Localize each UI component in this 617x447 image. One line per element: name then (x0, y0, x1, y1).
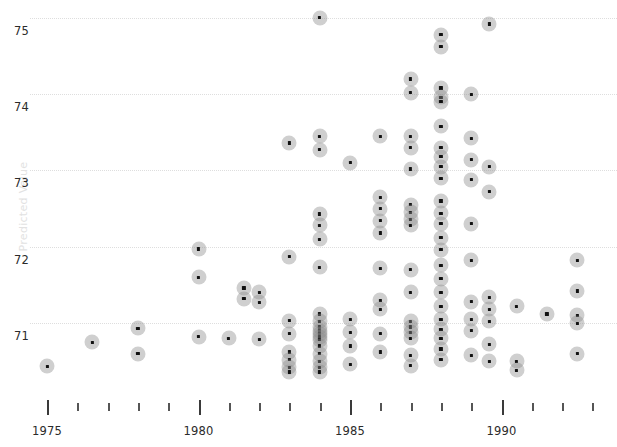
data-point (433, 149, 448, 164)
x-tick-minor-1993 (592, 403, 594, 411)
data-point (464, 216, 479, 231)
data-point (433, 140, 448, 155)
data-point (509, 299, 524, 314)
data-point (433, 341, 448, 356)
x-tick-major-1990 (502, 400, 504, 415)
data-point (312, 129, 327, 144)
data-point (433, 206, 448, 221)
data-point (373, 129, 388, 144)
data-point (464, 131, 479, 146)
data-point (373, 225, 388, 240)
data-point (482, 159, 497, 174)
data-point (482, 314, 497, 329)
data-point (403, 129, 418, 144)
x-tick-minor-1987 (411, 403, 413, 411)
x-tick-label-1990: 1990 (486, 424, 516, 438)
data-point (282, 249, 297, 264)
x-tick-major-1980 (199, 400, 201, 415)
x-tick-minor-1976 (77, 403, 79, 411)
data-point (282, 326, 297, 341)
x-tick-minor-1983 (289, 403, 291, 411)
x-tick-label-1975: 1975 (32, 424, 62, 438)
data-point (482, 337, 497, 352)
data-point (312, 306, 327, 321)
data-point (282, 344, 297, 359)
plot-area: 7172737475 (0, 0, 617, 447)
x-tick-label-1980: 1980 (183, 424, 213, 438)
scatter-chart: Predicted Value 7172737475 1975198019851… (0, 0, 617, 447)
data-point (312, 323, 327, 338)
data-point (403, 85, 418, 100)
data-point (282, 364, 297, 379)
data-point (403, 314, 418, 329)
data-point (252, 295, 267, 310)
data-point (312, 232, 327, 247)
x-tick-major-1975 (47, 400, 49, 415)
data-point (282, 313, 297, 328)
x-tick-minor-1981 (229, 403, 231, 411)
x-tick-minor-1991 (532, 403, 534, 411)
y-tick-label-74: 74 (14, 100, 29, 114)
x-tick-major-1985 (350, 400, 352, 415)
data-point (373, 190, 388, 205)
data-point (482, 302, 497, 317)
data-point (373, 213, 388, 228)
data-point (252, 285, 267, 300)
data-point (509, 354, 524, 369)
data-point (433, 216, 448, 231)
data-point (464, 152, 479, 167)
data-point (312, 354, 327, 369)
data-point (403, 140, 418, 155)
data-point (343, 325, 358, 340)
data-point (312, 332, 327, 347)
data-point (509, 363, 524, 378)
x-tick-minor-1982 (259, 403, 261, 411)
x-tick-label-1985: 1985 (335, 424, 365, 438)
data-point (433, 258, 448, 273)
data-point (464, 323, 479, 338)
data-point (373, 326, 388, 341)
gridline-y-75 (30, 18, 617, 19)
data-point (570, 253, 585, 268)
data-point (236, 280, 251, 295)
data-point (433, 94, 448, 109)
data-point (433, 242, 448, 257)
data-point (482, 184, 497, 199)
gridline-y-72 (30, 247, 617, 248)
data-point (403, 197, 418, 212)
x-tick-minor-1977 (108, 403, 110, 411)
data-point (570, 283, 585, 298)
data-point (191, 329, 206, 344)
data-point (403, 218, 418, 233)
data-point (343, 155, 358, 170)
data-point (464, 253, 479, 268)
data-point (40, 359, 55, 374)
data-point (312, 329, 327, 344)
data-point (312, 326, 327, 341)
data-point (373, 344, 388, 359)
data-point (403, 161, 418, 176)
data-point (433, 27, 448, 42)
gridline-y-74 (30, 94, 617, 95)
data-point (403, 205, 418, 220)
data-point (312, 346, 327, 361)
data-point (252, 332, 267, 347)
x-tick-minor-1978 (138, 403, 140, 411)
data-point (312, 218, 327, 233)
data-point (403, 348, 418, 363)
data-point (282, 360, 297, 375)
data-point (236, 291, 251, 306)
data-point (312, 338, 327, 353)
data-point (191, 241, 206, 256)
y-tick-label-75: 75 (14, 24, 29, 38)
data-point (482, 354, 497, 369)
data-point (312, 360, 327, 375)
x-axis: 1975198019851990 (0, 400, 617, 447)
data-point (433, 39, 448, 54)
gridline-y-73 (30, 170, 617, 171)
data-point (282, 352, 297, 367)
data-point (403, 319, 418, 334)
data-point (433, 230, 448, 245)
data-point (282, 135, 297, 150)
data-point (464, 348, 479, 363)
